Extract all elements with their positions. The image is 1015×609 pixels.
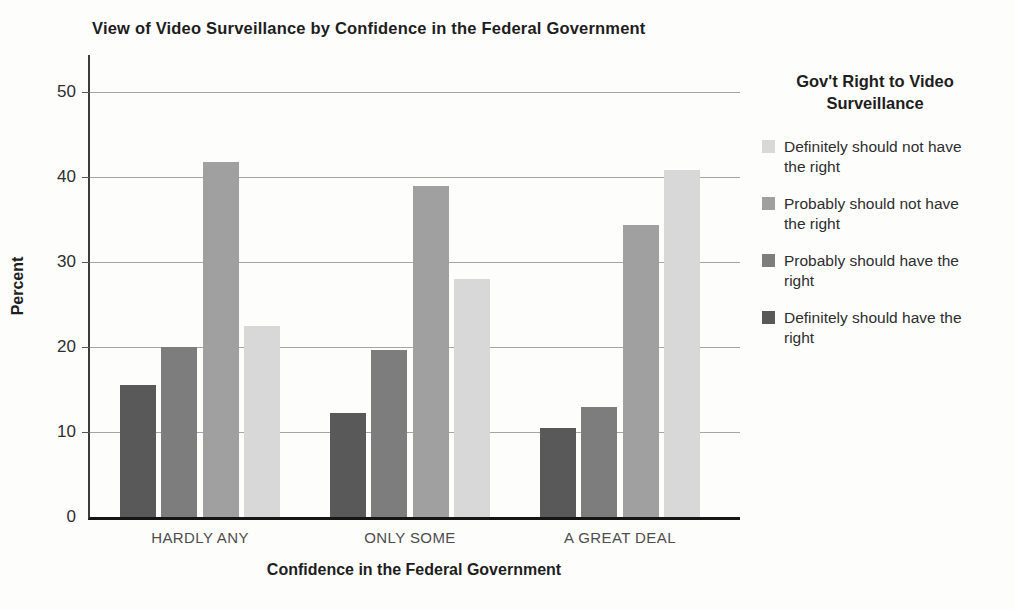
- y-tick-mark: [82, 262, 90, 263]
- legend-swatch: [762, 311, 775, 324]
- legend-item: Definitely should not have the right: [762, 137, 1006, 176]
- legend-item: Probably should not have the right: [762, 194, 1006, 233]
- legend-swatch: [762, 197, 775, 210]
- y-tick-label: 40: [34, 167, 76, 187]
- y-tick-mark: [82, 92, 90, 93]
- y-tick-label: 50: [34, 82, 76, 102]
- y-axis-title: Percent: [9, 257, 27, 316]
- x-category-label: HARDLY ANY: [151, 529, 249, 546]
- legend-item-label: Probably should not have the right: [784, 194, 966, 233]
- legend-title: Gov't Right to Video Surveillance: [762, 70, 988, 114]
- gridline: [90, 92, 740, 93]
- legend-item: Definitely should have the right: [762, 308, 1006, 347]
- bar: [581, 407, 617, 517]
- legend-item-label: Probably should have the right: [784, 251, 966, 290]
- y-tick-label: 10: [34, 422, 76, 442]
- bar: [371, 350, 407, 517]
- bar: [540, 428, 576, 517]
- y-tick-label: 20: [34, 337, 76, 357]
- x-category-label: A GREAT DEAL: [564, 529, 676, 546]
- y-tick-mark: [82, 432, 90, 433]
- bar: [330, 413, 366, 517]
- y-tick-mark: [82, 347, 90, 348]
- bar: [120, 385, 156, 517]
- bar: [203, 162, 239, 517]
- legend-swatch: [762, 140, 775, 153]
- bar: [454, 279, 490, 517]
- chart-title: View of Video Surveillance by Confidence…: [92, 19, 752, 38]
- x-axis-title: Confidence in the Federal Government: [88, 561, 740, 579]
- gridline: [90, 177, 740, 178]
- legend-item-label: Definitely should not have the right: [784, 137, 966, 176]
- chart-figure: View of Video Surveillance by Confidence…: [0, 0, 1015, 609]
- y-tick-label: 30: [34, 252, 76, 272]
- y-tick-label: 0: [34, 507, 76, 527]
- bar: [413, 186, 449, 517]
- bar: [664, 170, 700, 517]
- plot-area: 01020304050HARDLY ANYONLY SOMEA GREAT DE…: [88, 55, 740, 520]
- bar: [161, 347, 197, 517]
- x-category-label: ONLY SOME: [364, 529, 455, 546]
- legend-items: Definitely should not have the rightProb…: [762, 137, 1006, 347]
- bar: [623, 225, 659, 517]
- legend: Gov't Right to Video Surveillance Defini…: [762, 70, 1006, 365]
- legend-item-label: Definitely should have the right: [784, 308, 966, 347]
- legend-item: Probably should have the right: [762, 251, 1006, 290]
- legend-swatch: [762, 254, 775, 267]
- bar: [244, 326, 280, 517]
- y-tick-mark: [82, 177, 90, 178]
